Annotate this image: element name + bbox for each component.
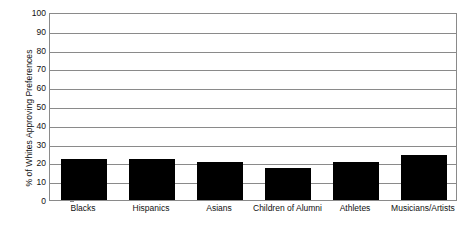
bars-group: [50, 14, 456, 200]
y-tick-label: 60: [24, 84, 46, 93]
bar: [333, 162, 380, 200]
y-tick-label: 80: [24, 46, 46, 55]
y-tick-label: 70: [24, 65, 46, 74]
y-tick-label: 50: [24, 103, 46, 112]
y-tick-label: 40: [24, 121, 46, 130]
x-tick-label: Blacks: [49, 203, 117, 214]
x-tick-label: Children of Alumni: [253, 203, 321, 214]
x-tick-label: Hispanics: [117, 203, 185, 214]
bar-chart: % of Whites Approving Preferences 010203…: [0, 0, 474, 236]
y-tick-label: 90: [24, 27, 46, 36]
y-tick-label: 20: [24, 159, 46, 168]
bar: [129, 159, 176, 200]
bar: [401, 155, 448, 200]
y-axis-tick-labels: 0102030405060708090100: [24, 13, 46, 201]
x-axis-tick-labels: BlacksHispanicsAsiansChildren of AlumniA…: [49, 203, 457, 219]
x-tick-label: Asians: [185, 203, 253, 214]
bar: [197, 162, 244, 200]
x-tick-label: Athletes: [321, 203, 389, 214]
y-tick-label: 10: [24, 178, 46, 187]
y-tick-label: 30: [24, 140, 46, 149]
bar: [61, 159, 108, 200]
y-tick-mark: [70, 201, 74, 202]
plot-area: [49, 13, 457, 201]
y-tick-label: 100: [24, 9, 46, 18]
bar: [265, 168, 312, 200]
y-tick-label: 0: [24, 197, 46, 206]
x-tick-label: Musicians/Artists: [389, 203, 457, 214]
